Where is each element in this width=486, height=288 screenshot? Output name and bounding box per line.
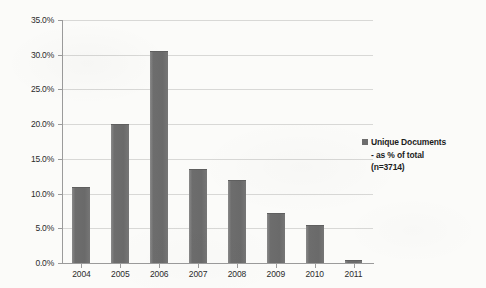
- bar-chart: 0.0%5.0%10.0%15.0%20.0%25.0%30.0%35.0% 2…: [0, 0, 486, 288]
- x-axis-tick: [120, 264, 121, 268]
- bar: [111, 124, 129, 263]
- bar: [189, 169, 207, 263]
- gridline: [62, 228, 373, 229]
- x-axis-tick: [159, 264, 160, 268]
- x-axis-label: 2009: [256, 269, 296, 279]
- gridline: [62, 194, 373, 195]
- x-axis-label: 2006: [139, 269, 179, 279]
- gridline: [62, 89, 373, 90]
- legend-swatch-icon: [362, 139, 368, 145]
- y-axis-tick: [58, 124, 62, 125]
- x-axis-tick: [198, 264, 199, 268]
- y-axis-label: 20.0%: [0, 119, 54, 129]
- bar: [150, 51, 168, 263]
- y-axis-tick: [58, 20, 62, 21]
- y-axis-tick: [58, 228, 62, 229]
- legend-label-line3: (n=3714): [371, 161, 482, 174]
- y-axis-label: 35.0%: [0, 15, 54, 25]
- chart-legend: Unique Documents - as % of total (n=3714…: [362, 136, 482, 174]
- x-axis-label: 2007: [178, 269, 218, 279]
- x-axis-label: 2010: [295, 269, 335, 279]
- y-axis-label: 15.0%: [0, 154, 54, 164]
- y-axis-label: 25.0%: [0, 84, 54, 94]
- y-axis-tick: [58, 159, 62, 160]
- y-axis-tick: [58, 263, 62, 264]
- y-axis-tick: [58, 55, 62, 56]
- x-axis-tick: [81, 264, 82, 268]
- y-axis-tick: [58, 89, 62, 90]
- x-axis-tick: [276, 264, 277, 268]
- y-axis-line: [62, 20, 63, 264]
- bar: [267, 213, 285, 263]
- legend-item: Unique Documents: [362, 136, 482, 149]
- y-axis-label: 10.0%: [0, 189, 54, 199]
- bar: [72, 187, 90, 263]
- x-axis-tick: [237, 264, 238, 268]
- legend-label-line2: - as % of total: [371, 149, 482, 162]
- x-axis-label: 2008: [217, 269, 257, 279]
- x-axis-label: 2005: [100, 269, 140, 279]
- legend-label-line1: Unique Documents: [371, 136, 446, 149]
- gridline: [62, 20, 373, 21]
- bar: [306, 225, 324, 263]
- gridline: [62, 159, 373, 160]
- x-axis-line: [62, 263, 374, 264]
- x-axis-tick: [354, 264, 355, 268]
- y-axis-label: 0.0%: [0, 258, 54, 268]
- gridline: [62, 55, 373, 56]
- gridline: [62, 124, 373, 125]
- x-axis-label: 2004: [61, 269, 101, 279]
- bar: [228, 180, 246, 263]
- y-axis-label: 5.0%: [0, 223, 54, 233]
- y-axis-label: 30.0%: [0, 50, 54, 60]
- x-axis-label: 2011: [334, 269, 374, 279]
- x-axis-tick: [315, 264, 316, 268]
- y-axis-tick: [58, 194, 62, 195]
- plot-area: [62, 20, 373, 263]
